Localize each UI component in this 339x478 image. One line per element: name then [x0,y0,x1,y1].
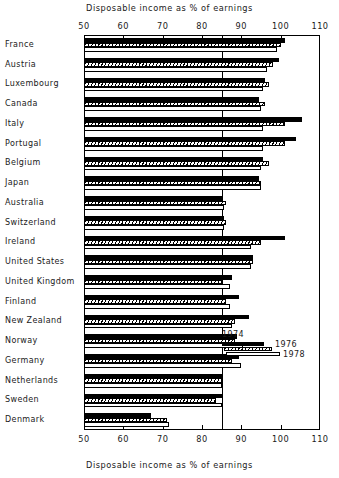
category-label: Switzerland [5,218,56,227]
bar-group: United States [0,252,236,272]
category-label: Finland [5,297,36,306]
bar-1978 [84,304,230,309]
category-label: Sweden [5,395,39,404]
chart-title-bottom: Disposable income as % of earnings [0,460,339,470]
bar-1978 [84,47,277,52]
category-label: Germany [5,356,45,365]
axis-tick-label-50: 50 [78,434,89,444]
category-label: United Kingdom [5,277,75,286]
bar-1978 [84,363,241,368]
legend-label-1974: 1974 [222,330,244,339]
axis-tick-label-70: 70 [157,21,168,31]
bar-group: Germany [0,351,236,371]
axis-tick-label-50: 50 [78,21,89,31]
bar-group: Norway [0,331,236,351]
bar-group: France [0,35,236,55]
bar-1978 [84,106,261,111]
legend-label-1978: 1978 [283,350,305,359]
bar-1978 [84,185,261,190]
legend-label-1976: 1976 [275,340,297,349]
bar-1978 [84,422,169,427]
bar-1978 [84,245,251,250]
bar-group: Italy [0,114,236,134]
axis-tick-100 [281,425,282,430]
category-label: Ireland [5,237,35,246]
axis-tick-label-80: 80 [196,434,207,444]
axis-tick-label-90: 90 [236,21,247,31]
bar-1978 [84,403,222,408]
category-label: Denmark [5,415,45,424]
axis-tick-label-110: 110 [311,21,328,31]
chart-title-top: Disposable income as % of earnings [0,3,339,13]
bar-1978 [84,67,267,72]
bar-group: Japan [0,173,236,193]
bar-1978 [84,324,232,329]
legend-swatch-1976 [224,347,272,351]
category-label: Portugal [5,139,41,148]
axis-tick-label-100: 100 [272,21,289,31]
bar-group: Canada [0,94,236,114]
bar-group: Belgium [0,154,236,174]
bar-group: Portugal [0,134,236,154]
bar-group: Ireland [0,233,236,253]
category-label: Netherlands [5,376,58,385]
bar-group: Finland [0,292,236,312]
bar-1978 [84,284,230,289]
category-label: Belgium [5,158,41,167]
chart-root: Disposable income as % of earnings 50506… [0,0,339,478]
category-label: United States [5,257,64,266]
bar-group: Switzerland [0,213,236,233]
category-label: Italy [5,119,24,128]
legend: 1974 1976 1978 [222,330,322,376]
bar-1978 [84,126,263,131]
category-label: France [5,40,34,49]
axis-tick-label-60: 60 [118,434,129,444]
category-label: Japan [5,178,29,187]
legend-swatch-1978 [226,352,280,356]
category-label: Canada [5,99,38,108]
bar-1978 [84,264,251,269]
bar-1978 [84,225,224,230]
axis-tick-label-80: 80 [196,21,207,31]
bar-1978 [84,87,263,92]
bar-group: Austria [0,55,236,75]
bar-group: Australia [0,193,236,213]
bar-group: Luxembourg [0,75,236,95]
axis-tick-label-60: 60 [118,21,129,31]
axis-tick-label-90: 90 [236,434,247,444]
axis-tick-label-110: 110 [311,434,328,444]
category-label: Norway [5,336,38,345]
bar-group: United Kingdom [0,272,236,292]
bar-1978 [84,205,224,210]
bar-group: Sweden [0,391,236,411]
axis-tick-label-100: 100 [272,434,289,444]
bar-group: Denmark [0,410,236,430]
category-label: Luxembourg [5,79,59,88]
legend-swatch-1974 [222,342,264,346]
category-label: Austria [5,60,36,69]
bar-1978 [84,343,243,348]
axis-tick-90 [241,425,242,430]
category-label: Australia [5,198,44,207]
bar-1978 [84,146,263,151]
bar-1978 [84,166,261,171]
bar-group: Netherlands [0,371,236,391]
bar-group: New Zealand [0,312,236,332]
bar-1978 [84,383,222,388]
axis-tick-label-70: 70 [157,434,168,444]
category-label: New Zealand [5,316,62,325]
